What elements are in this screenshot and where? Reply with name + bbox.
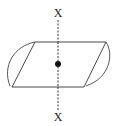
rotation-axis-diagram: X X bbox=[0, 0, 115, 126]
right-curved-edge bbox=[86, 42, 110, 86]
axis-label-top: X bbox=[54, 6, 63, 20]
left-curved-edge bbox=[8, 42, 35, 86]
center-point bbox=[55, 61, 61, 67]
axis-label-bottom: X bbox=[54, 110, 63, 124]
